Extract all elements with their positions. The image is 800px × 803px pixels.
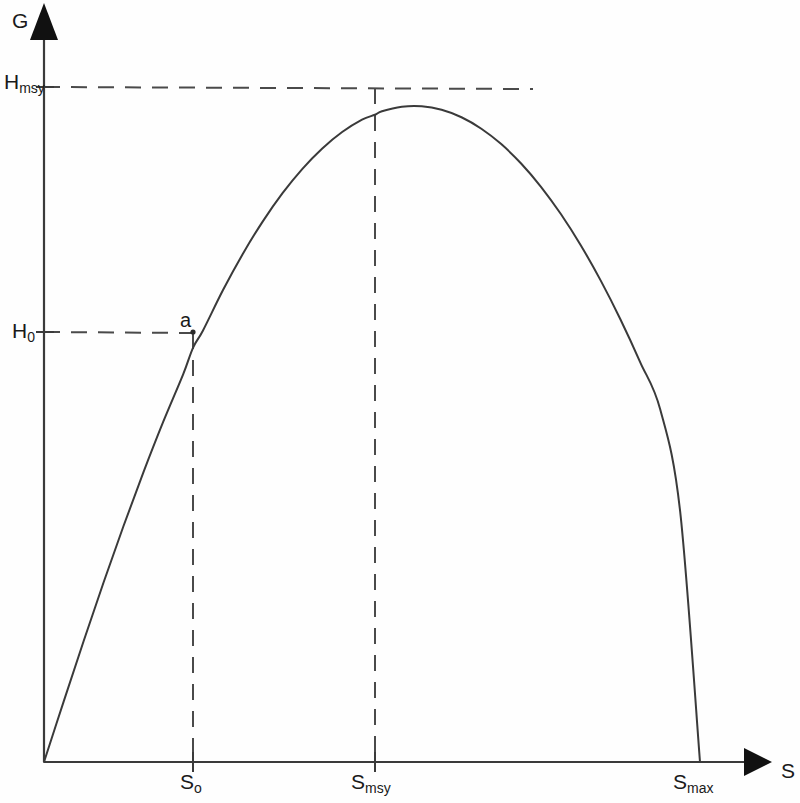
y-tick-label-hmsy: Hmsy	[4, 71, 45, 92]
point-a-label: a	[180, 310, 191, 330]
y-axis-label: G	[12, 10, 28, 31]
x-axis-label: S	[781, 760, 795, 781]
x-tick-label-s0: So	[180, 771, 202, 792]
smsy-base: S	[351, 770, 365, 793]
s0-base: S	[180, 770, 194, 793]
hmsy-base: H	[4, 70, 19, 93]
y-tick-label-h0: H0	[12, 320, 35, 341]
plot-canvas	[0, 0, 800, 803]
hmsy-guide-line	[44, 87, 533, 89]
smax-subscript: max	[687, 780, 713, 796]
h0-base: H	[12, 319, 27, 342]
x-tick-label-smsy: Smsy	[351, 771, 391, 792]
surplus-production-curve	[44, 106, 700, 762]
h0-subscript: 0	[27, 329, 35, 345]
right-arrow-icon	[744, 748, 772, 776]
s0-subscript: o	[194, 780, 202, 796]
point-a-marker	[190, 329, 195, 334]
chart-figure: G S Hmsy H0 So Smsy Smax a	[0, 0, 800, 803]
hmsy-subscript: msy	[19, 80, 45, 96]
h0-guide-line	[44, 332, 193, 333]
up-arrow-icon	[30, 3, 58, 40]
smsy-subscript: msy	[365, 780, 391, 796]
x-tick-label-smax: Smax	[673, 771, 713, 792]
smax-base: S	[673, 770, 687, 793]
